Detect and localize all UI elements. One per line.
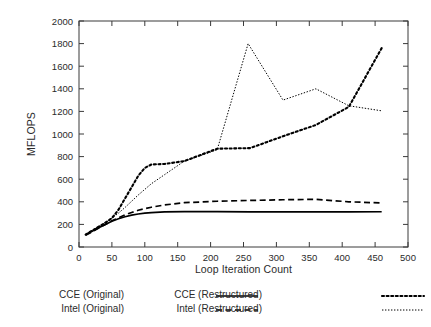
chart-canvas: 0200400600800100012001400160018002000 05… — [0, 0, 431, 327]
x-tick-label: 100 — [137, 252, 153, 263]
series-line-1 — [86, 199, 382, 235]
y-tick-label: 400 — [57, 196, 73, 207]
y-tick-label: 800 — [57, 151, 73, 162]
legend-label-0: CCE (Original) — [34, 289, 124, 300]
legend-label-2: CCE (Restructured) — [172, 289, 262, 300]
y-tick-label: 1400 — [52, 83, 73, 94]
x-tick-label: 500 — [400, 252, 416, 263]
y-tick-label: 1600 — [52, 61, 73, 72]
x-tick-label: 250 — [236, 252, 252, 263]
data-series-layer — [86, 44, 382, 236]
y-tick-label: 200 — [57, 219, 73, 230]
x-tick-label: 50 — [107, 252, 118, 263]
series-line-0 — [86, 212, 382, 235]
x-tick-label: 200 — [203, 252, 219, 263]
x-tick-label: 0 — [76, 252, 81, 263]
x-axis-title: Loop Iteration Count — [79, 263, 408, 275]
y-tick-label: 0 — [68, 242, 73, 253]
y-axis-title: MFLOPS — [25, 89, 37, 179]
x-axis-tick-labels: 050100150200250300350400450500 — [76, 252, 416, 263]
x-tick-label: 350 — [301, 252, 317, 263]
y-tick-label: 2000 — [52, 16, 73, 27]
series-line-2 — [86, 48, 382, 234]
legend-label-3: Intel (Restructured) — [172, 303, 262, 314]
y-tick-label: 1800 — [52, 38, 73, 49]
x-tick-label: 450 — [367, 252, 383, 263]
x-tick-label: 300 — [268, 252, 284, 263]
y-tick-label: 600 — [57, 174, 73, 185]
x-tick-label: 400 — [334, 252, 350, 263]
chart-figure: 0200400600800100012001400160018002000 05… — [0, 0, 431, 327]
legend-label-1: Intel (Original) — [34, 303, 124, 314]
series-line-3 — [86, 44, 382, 235]
y-axis-tick-labels: 0200400600800100012001400160018002000 — [52, 16, 73, 253]
x-tick-label: 150 — [170, 252, 186, 263]
y-tick-label: 1000 — [52, 129, 73, 140]
y-tick-label: 1200 — [52, 106, 73, 117]
